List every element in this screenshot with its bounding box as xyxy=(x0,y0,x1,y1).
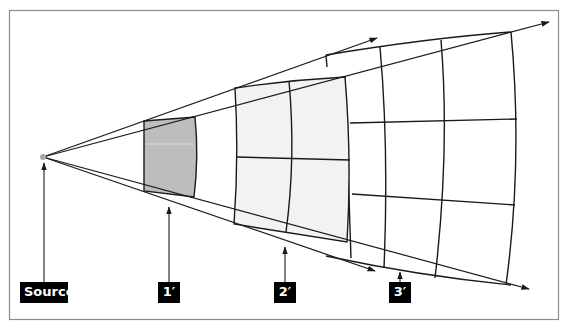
source-point xyxy=(40,154,46,160)
label-source: Source xyxy=(20,282,68,303)
label-2-prime: 2′ xyxy=(274,282,296,303)
inverse-square-diagram xyxy=(0,0,568,328)
label-1-prime: 1′ xyxy=(158,282,180,303)
label-3-prime: 3′ xyxy=(389,282,411,303)
box-1-prime xyxy=(144,117,197,197)
